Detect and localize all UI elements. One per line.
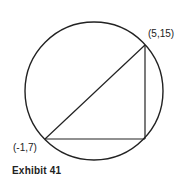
exhibit-caption: Exhibit 41 <box>12 166 61 176</box>
hypotenuse <box>45 45 145 139</box>
point-label-top-right: (5,15) <box>148 29 174 39</box>
point-label-bottom-left: (-1,7) <box>13 143 37 153</box>
